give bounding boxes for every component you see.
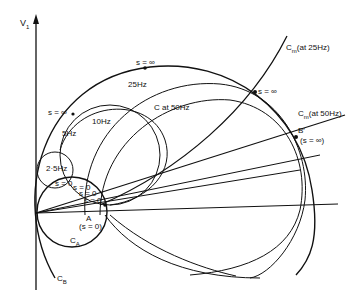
lower-arc-1	[105, 215, 260, 278]
point-s-inf-right	[253, 90, 257, 94]
axis-arrow-icon	[33, 14, 39, 24]
locus-cm-25hz	[100, 36, 287, 205]
label-10hz: 10Hz	[92, 118, 111, 126]
label-s0-4: s = 0	[84, 197, 102, 205]
label-b-prime-note: (s = ∞)	[300, 137, 324, 145]
label-cm-50hz: Cm(at 50Hz)	[298, 110, 342, 120]
label-5hz: 5Hz	[62, 130, 76, 138]
lower-arc-2	[110, 215, 236, 276]
label-cb: CB	[57, 275, 67, 285]
axis-label-v1: V1	[20, 19, 29, 30]
point-s-inf-left	[71, 112, 74, 115]
circle-diagram: V1 s = ∞ s = ∞ s = ∞ 25Hz C at 50Hz 10Hz…	[0, 0, 362, 299]
label-s-inf-top: s = ∞	[136, 59, 155, 67]
label-c-50hz: C at 50Hz	[154, 104, 190, 112]
label-a-note: (s = 0)	[79, 223, 102, 231]
label-s-inf-left: s = ∞	[48, 109, 67, 117]
circle-50hz	[100, 100, 302, 275]
label-ca: CA	[70, 237, 80, 247]
label-cm-25hz: Cm(at 25Hz)	[286, 44, 330, 54]
label-b-prime: B′	[298, 127, 305, 135]
label-25hz: 25Hz	[128, 81, 147, 89]
label-2-5hz: 2·5Hz	[46, 165, 67, 173]
label-s-inf-right: s = ∞	[258, 88, 277, 96]
point-a	[103, 203, 107, 207]
point-b-prime	[294, 135, 298, 139]
label-s0-1: s = 0	[55, 180, 73, 188]
